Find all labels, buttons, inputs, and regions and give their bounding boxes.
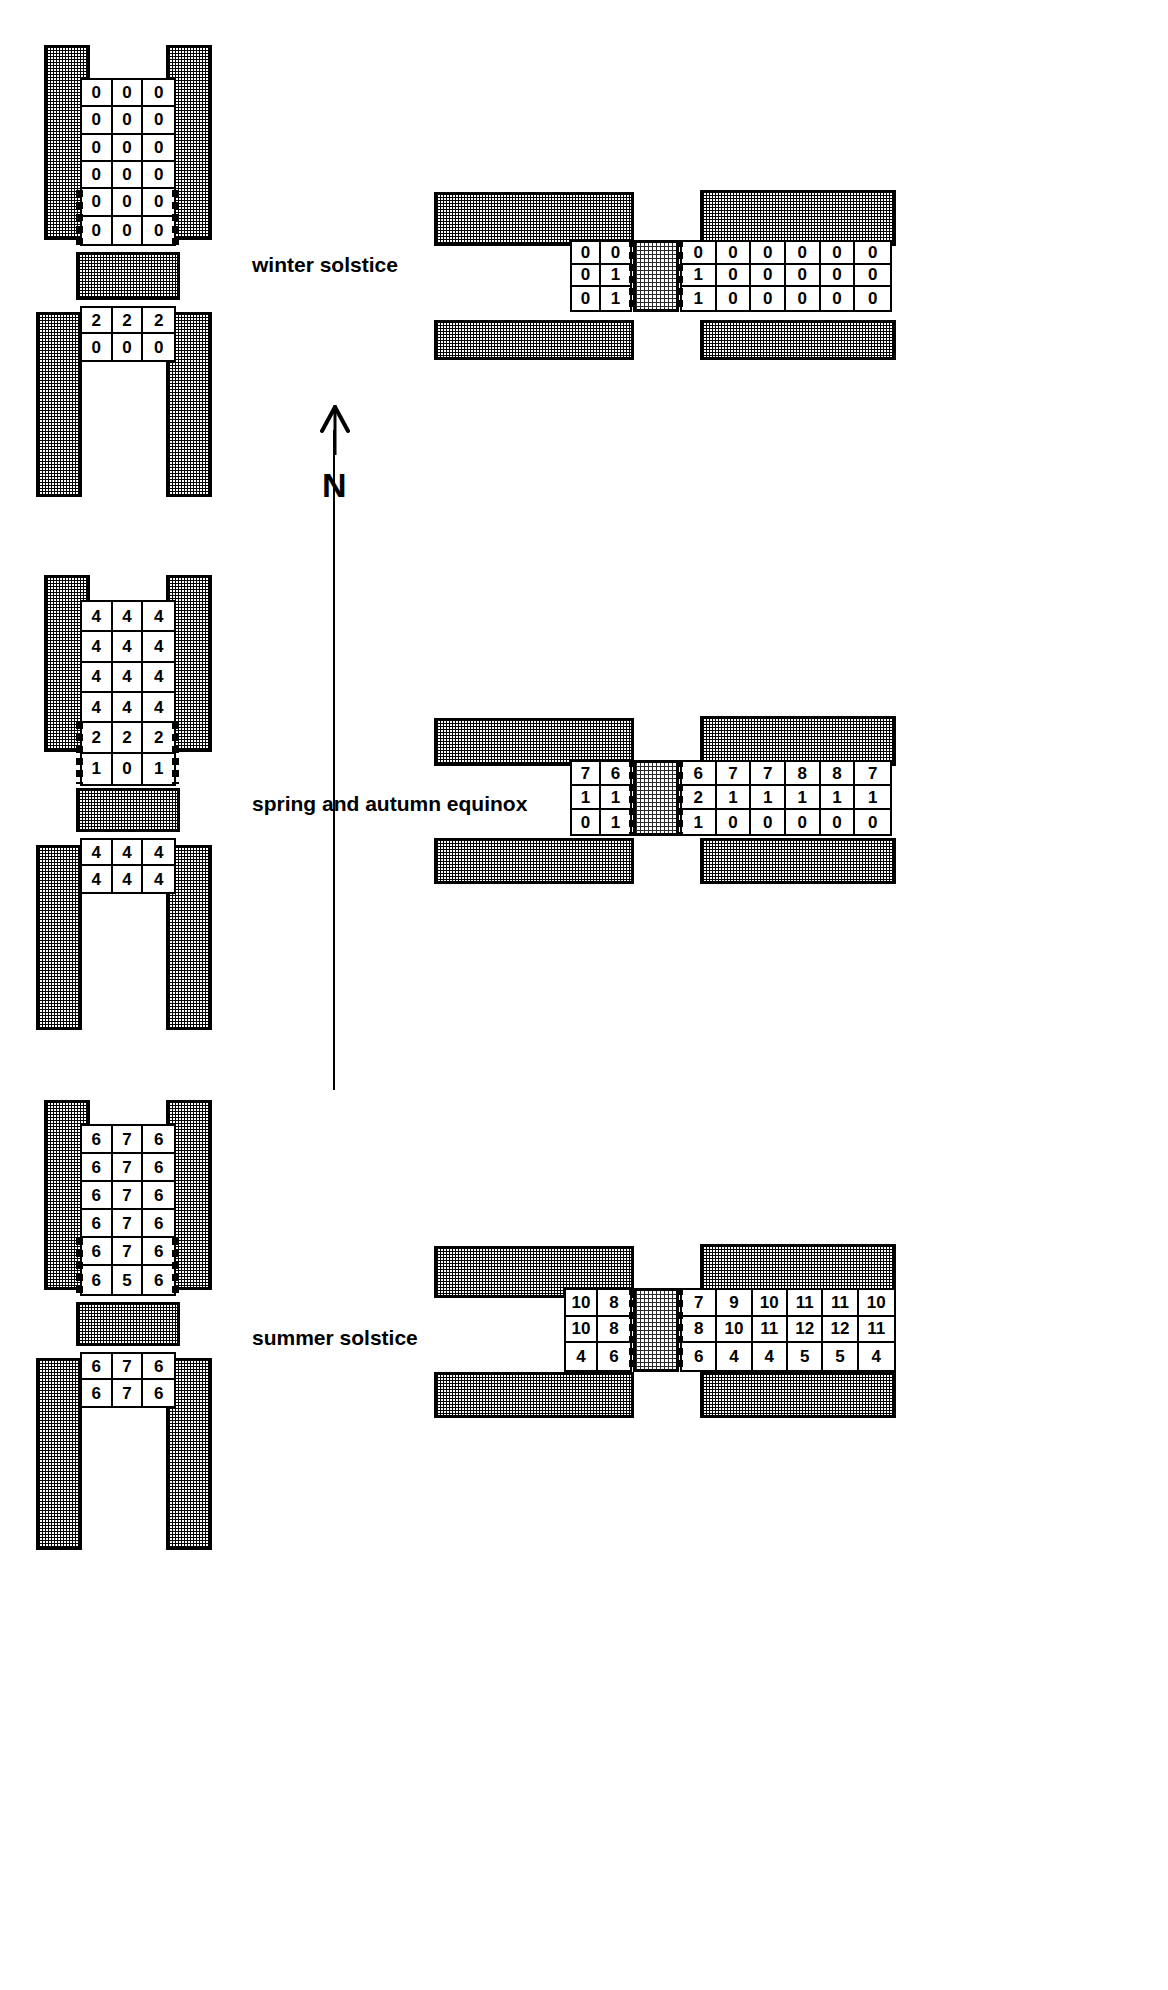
grid-cell: 4 bbox=[753, 1343, 788, 1370]
grid-cell: 0 bbox=[113, 162, 144, 189]
section-label-equinox: spring and autumn equinox bbox=[252, 792, 527, 816]
grid-cell: 7 bbox=[113, 1126, 144, 1154]
grid-cell: 1 bbox=[682, 265, 717, 288]
grid-cell: 4 bbox=[82, 602, 113, 632]
grid-cell: 6 bbox=[143, 1266, 174, 1294]
grid-cell: 10 bbox=[717, 1317, 752, 1344]
grid-cell: 8 bbox=[682, 1317, 717, 1344]
grid-cell: 4 bbox=[566, 1343, 598, 1370]
grid-cell: 0 bbox=[786, 287, 821, 310]
grid-cell: 1 bbox=[682, 810, 717, 834]
grid-cell: 2 bbox=[682, 786, 717, 810]
grid-cell: 5 bbox=[113, 1266, 144, 1294]
grid-cell: 6 bbox=[143, 1126, 174, 1154]
grid-cell: 1 bbox=[143, 754, 174, 784]
grid-cell: 4 bbox=[113, 693, 144, 723]
grid-cell: 0 bbox=[572, 287, 601, 310]
grid-cell: 7 bbox=[855, 762, 890, 786]
grid-cell: 6 bbox=[143, 1154, 174, 1182]
grid-cell: 1 bbox=[601, 786, 630, 810]
grid-cell: 0 bbox=[821, 287, 856, 310]
grid-cell: 0 bbox=[113, 189, 144, 216]
winter-left-dashwall-east bbox=[172, 190, 179, 246]
grid-cell: 0 bbox=[751, 265, 786, 288]
grid-cell: 4 bbox=[143, 602, 174, 632]
equinox-right-left-grid: 761101 bbox=[570, 760, 632, 836]
summer-right-dashwall-west bbox=[629, 1288, 636, 1372]
grid-cell: 0 bbox=[717, 242, 752, 265]
grid-cell: 4 bbox=[143, 632, 174, 662]
grid-cell: 0 bbox=[786, 265, 821, 288]
north-axis-line bbox=[333, 430, 335, 1090]
grid-cell: 5 bbox=[823, 1343, 858, 1370]
grid-cell: 1 bbox=[572, 786, 601, 810]
grid-cell: 4 bbox=[143, 663, 174, 693]
grid-cell: 0 bbox=[82, 162, 113, 189]
grid-cell: 4 bbox=[82, 632, 113, 662]
equinox-right-northwest-bar bbox=[434, 718, 634, 766]
grid-cell: 6 bbox=[82, 1154, 113, 1182]
grid-cell: 1 bbox=[601, 265, 630, 288]
grid-cell: 2 bbox=[82, 308, 113, 334]
grid-cell: 0 bbox=[855, 287, 890, 310]
winter-right-right-grid: 000000100000100000 bbox=[680, 240, 892, 312]
grid-cell: 6 bbox=[682, 762, 717, 786]
grid-cell: 7 bbox=[751, 762, 786, 786]
grid-cell: 0 bbox=[82, 217, 113, 244]
grid-cell: 4 bbox=[113, 632, 144, 662]
summer-right-dashwall-east bbox=[676, 1288, 683, 1372]
equinox-right-dashwall-west bbox=[629, 760, 636, 836]
grid-cell: 0 bbox=[143, 334, 174, 360]
summer-left-upper-grid: 676676676676676656 bbox=[80, 1124, 176, 1296]
grid-cell: 6 bbox=[82, 1182, 113, 1210]
north-letter: N bbox=[322, 466, 347, 505]
grid-cell: 0 bbox=[855, 265, 890, 288]
grid-cell: 4 bbox=[82, 663, 113, 693]
winter-right-northwest-bar bbox=[434, 192, 634, 246]
winter-right-northeast-bar bbox=[700, 190, 896, 246]
grid-cell: 1 bbox=[821, 786, 856, 810]
winter-right-center-core bbox=[633, 240, 679, 312]
equinox-right-dashwall-east bbox=[676, 760, 683, 836]
equinox-right-northeast-bar bbox=[700, 716, 896, 766]
grid-cell: 0 bbox=[751, 242, 786, 265]
section-label-winter: winter solstice bbox=[252, 253, 398, 277]
summer-left-dashwall-east bbox=[172, 1238, 179, 1296]
grid-cell: 0 bbox=[821, 810, 856, 834]
grid-cell: 6 bbox=[82, 1380, 113, 1406]
grid-cell: 0 bbox=[82, 80, 113, 107]
grid-cell: 1 bbox=[717, 786, 752, 810]
grid-cell: 0 bbox=[113, 107, 144, 134]
north-arrow-icon bbox=[318, 405, 352, 455]
equinox-right-southwest-bar bbox=[434, 838, 634, 884]
grid-cell: 0 bbox=[717, 287, 752, 310]
grid-cell: 0 bbox=[751, 810, 786, 834]
grid-cell: 10 bbox=[566, 1290, 598, 1317]
grid-cell: 0 bbox=[143, 217, 174, 244]
grid-cell: 4 bbox=[143, 866, 174, 892]
grid-cell: 0 bbox=[717, 265, 752, 288]
grid-cell: 4 bbox=[82, 693, 113, 723]
winter-right-left-grid: 000101 bbox=[570, 240, 632, 312]
equinox-left-dashwall-east bbox=[172, 722, 179, 784]
grid-cell: 0 bbox=[855, 242, 890, 265]
equinox-left-center-block bbox=[76, 788, 180, 832]
winter-right-southeast-bar bbox=[700, 320, 896, 360]
equinox-left-dashwall-west bbox=[76, 722, 83, 784]
equinox-right-right-grid: 677887211111100000 bbox=[680, 760, 892, 836]
grid-cell: 4 bbox=[717, 1343, 752, 1370]
grid-cell: 0 bbox=[113, 135, 144, 162]
winter-right-dashwall-west bbox=[629, 240, 636, 312]
grid-cell: 0 bbox=[572, 265, 601, 288]
grid-cell: 0 bbox=[821, 242, 856, 265]
grid-cell: 0 bbox=[82, 334, 113, 360]
grid-cell: 11 bbox=[788, 1290, 823, 1317]
grid-cell: 7 bbox=[113, 1210, 144, 1238]
grid-cell: 0 bbox=[717, 810, 752, 834]
winter-left-lower-wing-west bbox=[36, 312, 82, 497]
grid-cell: 7 bbox=[682, 1290, 717, 1317]
summer-left-lower-grid: 676676 bbox=[80, 1352, 176, 1408]
diagram-canvas: N winter solstice 000000000000000000 222… bbox=[0, 0, 1168, 1990]
grid-cell: 6 bbox=[143, 1354, 174, 1380]
winter-left-lower-grid: 222000 bbox=[80, 306, 176, 362]
